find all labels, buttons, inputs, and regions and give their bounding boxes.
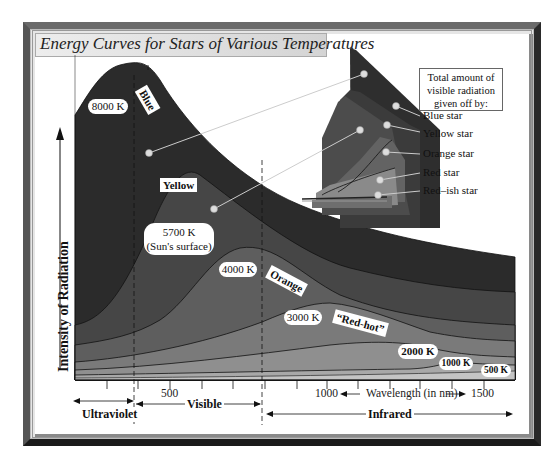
temp-5700k-value: 5700 K bbox=[144, 225, 214, 239]
region-infrared: Infrared bbox=[366, 407, 414, 422]
x-axis-title: Wavelength (in nm) bbox=[366, 387, 458, 399]
temp-4000k: 4000 K bbox=[219, 262, 257, 277]
legend-heading: Total amount of visible radiation given … bbox=[419, 68, 503, 111]
temp-8000k: 8000 K bbox=[88, 99, 128, 114]
region-ultraviolet: Ultraviolet bbox=[80, 407, 139, 422]
label-yellow: Yellow bbox=[160, 178, 197, 192]
temp-3000k: 3000 K bbox=[284, 310, 322, 325]
temp-2000k: 2000 K bbox=[398, 344, 438, 359]
temp-1000k: 1000 K bbox=[439, 357, 473, 370]
region-visible: Visible bbox=[185, 397, 224, 412]
legend-yellow-star: Yellow star bbox=[423, 127, 473, 139]
temp-500k: 500 K bbox=[481, 364, 511, 377]
temp-5700k-note: (Sun's surface) bbox=[144, 239, 214, 253]
tick-500: 500 bbox=[161, 387, 178, 399]
tick-1000: 1000 bbox=[315, 387, 338, 399]
legend-redish-star: Red–ish star bbox=[423, 184, 478, 196]
legend-red-star: Red star bbox=[423, 166, 459, 178]
temp-5700k: 5700 K (Sun's surface) bbox=[144, 223, 214, 255]
legend-blue-star: Blue star bbox=[423, 109, 462, 121]
legend-orange-star: Orange star bbox=[423, 147, 474, 159]
y-axis-title: Intensity of Radiation bbox=[56, 241, 72, 372]
tick-1500: 1500 bbox=[471, 387, 494, 399]
